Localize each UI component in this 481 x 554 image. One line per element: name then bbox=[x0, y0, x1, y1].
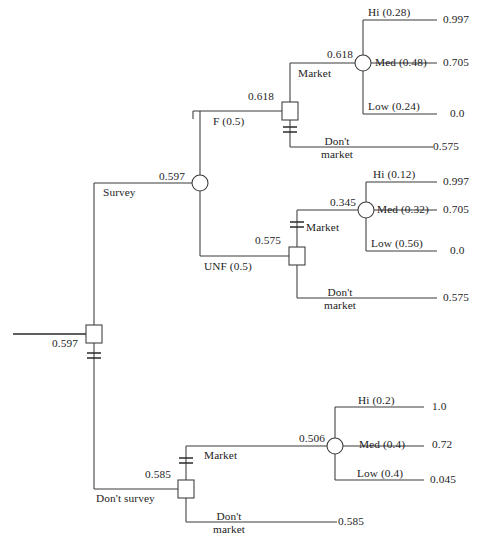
edge-label-unf-dont-market: Don't market bbox=[316, 286, 364, 312]
edge-label-unf-market: Market bbox=[306, 221, 339, 234]
branch-label-ns-med: Med (0.4) bbox=[359, 438, 405, 451]
branch-label-f-low: Low (0.24) bbox=[368, 100, 420, 113]
branch-label-unf-med: Med (0.32) bbox=[377, 203, 429, 216]
node-value-f-decision: 0.618 bbox=[248, 90, 274, 103]
edge-label-unf-dont-market-line2: market bbox=[316, 299, 364, 312]
edge-label-unf-dont-market-line1: Don't bbox=[316, 286, 364, 299]
node-value-unf-market-chance: 0.345 bbox=[330, 196, 356, 209]
node-value-f-market-chance: 0.618 bbox=[327, 48, 353, 61]
payoff-unf-hi: 0.997 bbox=[443, 175, 469, 188]
edge-label-ns-dont-market: Don't market bbox=[205, 510, 253, 536]
edge-label-dont-survey: Don't survey bbox=[96, 492, 155, 505]
payoff-unf-med: 0.705 bbox=[443, 203, 469, 216]
node-value-survey-chance: 0.597 bbox=[159, 170, 185, 183]
node-survey-chance-circle[interactable] bbox=[192, 175, 208, 191]
payoff-ns-hi: 1.0 bbox=[432, 400, 446, 413]
node-f-market-chance-circle[interactable] bbox=[355, 55, 371, 71]
branch-label-f-med: Med (0.48) bbox=[375, 56, 427, 69]
edge-label-f-dont-market-line1: Don't bbox=[313, 135, 361, 148]
node-unf-decision-square[interactable] bbox=[289, 247, 305, 265]
payoff-f-low: 0.0 bbox=[450, 107, 464, 120]
edge-label-unf: UNF (0.5) bbox=[204, 260, 252, 273]
branch-label-unf-low: Low (0.56) bbox=[371, 237, 423, 250]
edge-label-f-dont-market: Don't market bbox=[313, 135, 361, 161]
branch-label-ns-hi: Hi (0.2) bbox=[358, 394, 395, 407]
payoff-unf-dont-market: 0.575 bbox=[443, 291, 469, 304]
node-root-decision-square[interactable] bbox=[86, 325, 102, 343]
payoff-unf-low: 0.0 bbox=[450, 244, 464, 257]
node-nosurvey-decision-square[interactable] bbox=[178, 480, 194, 498]
branch-label-unf-hi: Hi (0.12) bbox=[373, 168, 415, 181]
edge-label-ns-dont-market-line1: Don't bbox=[205, 510, 253, 523]
edge-label-ns-dont-market-line2: market bbox=[205, 523, 253, 536]
payoff-ns-dont-market: 0.585 bbox=[338, 515, 364, 528]
node-unf-market-chance-circle[interactable] bbox=[358, 202, 374, 218]
edge-label-f-market: Market bbox=[298, 67, 331, 80]
decision-tree-canvas bbox=[0, 0, 481, 554]
node-value-nosurvey-decision: 0.585 bbox=[145, 468, 171, 481]
node-ns-market-chance-circle[interactable] bbox=[327, 438, 343, 454]
node-value-ns-market-chance: 0.506 bbox=[299, 432, 325, 445]
payoff-f-med: 0.705 bbox=[443, 56, 469, 69]
decision-tree-figure: 0.597 Survey Don't survey 0.597 F (0.5) … bbox=[0, 0, 481, 554]
payoff-ns-low: 0.045 bbox=[430, 473, 456, 486]
edge-label-f: F (0.5) bbox=[213, 115, 244, 128]
branch-label-f-hi: Hi (0.28) bbox=[368, 6, 410, 19]
payoff-f-dont-market: 0.575 bbox=[433, 140, 459, 153]
node-value-unf-decision: 0.575 bbox=[255, 234, 281, 247]
payoff-ns-med: 0.72 bbox=[432, 438, 452, 451]
branch-label-ns-low: Low (0.4) bbox=[357, 467, 403, 480]
node-f-decision-square[interactable] bbox=[282, 102, 298, 120]
edge-label-ns-market: Market bbox=[204, 449, 237, 462]
payoff-f-hi: 0.997 bbox=[443, 13, 469, 26]
edge-label-f-dont-market-line2: market bbox=[313, 148, 361, 161]
edge-label-survey: Survey bbox=[103, 186, 136, 199]
node-value-root: 0.597 bbox=[52, 337, 78, 350]
